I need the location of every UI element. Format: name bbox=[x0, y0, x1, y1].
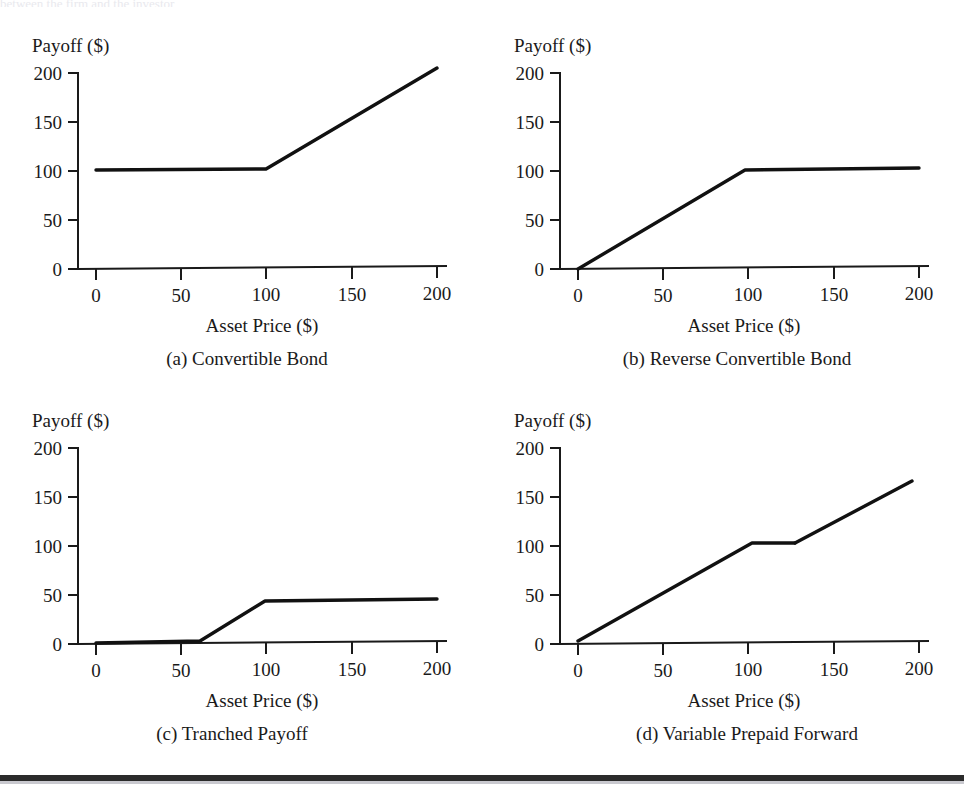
x-axis-label: Asset Price ($) bbox=[688, 315, 801, 337]
payoff-line-upper bbox=[795, 481, 912, 543]
payoff-line-lower bbox=[578, 543, 795, 641]
x-axis-label: Asset Price ($) bbox=[206, 690, 319, 712]
x-tick-label-200: 200 bbox=[423, 658, 452, 679]
y-tick-label-200: 200 bbox=[34, 63, 63, 84]
y-tick-label-0: 0 bbox=[53, 634, 63, 655]
x-tick-label-150: 150 bbox=[820, 284, 849, 305]
y-tick-label-0: 0 bbox=[535, 634, 545, 655]
x-tick-label-50: 50 bbox=[654, 660, 673, 681]
y-tick-label-100: 100 bbox=[34, 161, 63, 182]
x-axis-line bbox=[560, 641, 929, 644]
chart-svg-tranched-payoff: Payoff ($) 200 150 100 50 0 0 50 100 150… bbox=[0, 385, 482, 760]
x-tick-label-100: 100 bbox=[252, 659, 281, 680]
x-tick-label-200: 200 bbox=[905, 658, 934, 679]
y-tick-label-150: 150 bbox=[516, 487, 545, 508]
y-tick-label-0: 0 bbox=[53, 259, 63, 280]
y-tick-label-150: 150 bbox=[34, 487, 63, 508]
y-tick-label-50: 50 bbox=[525, 585, 544, 606]
chart-svg-reverse-convertible-bond: Payoff ($) 200 150 100 50 0 0 50 100 150… bbox=[482, 10, 964, 385]
y-tick-label-100: 100 bbox=[516, 536, 545, 557]
x-axis-label: Asset Price ($) bbox=[206, 315, 319, 337]
chart-panel-convertible-bond: Payoff ($) 200 150 100 50 0 0 50 10 bbox=[0, 10, 482, 385]
panel-caption: (b) Reverse Convertible Bond bbox=[623, 348, 852, 370]
payoff-line bbox=[578, 168, 919, 269]
x-axis-line bbox=[560, 266, 929, 269]
x-tick-label-100: 100 bbox=[734, 284, 763, 305]
chart-panel-reverse-convertible-bond: Payoff ($) 200 150 100 50 0 0 50 100 150… bbox=[482, 10, 964, 385]
figure-bottom-rule-shadow bbox=[0, 781, 964, 784]
panel-caption: (d) Variable Prepaid Forward bbox=[636, 723, 858, 745]
x-tick-label-0: 0 bbox=[573, 285, 583, 306]
y-tick-label-100: 100 bbox=[34, 536, 63, 557]
x-tick-label-200: 200 bbox=[423, 283, 452, 304]
x-tick-label-50: 50 bbox=[654, 285, 673, 306]
x-tick-label-150: 150 bbox=[338, 659, 367, 680]
y-tick-label-150: 150 bbox=[34, 112, 63, 133]
chart-panel-variable-prepaid-forward: Payoff ($) 200 150 100 50 0 0 50 100 150… bbox=[482, 385, 964, 760]
x-axis-label: Asset Price ($) bbox=[688, 690, 801, 712]
x-tick-label-200: 200 bbox=[905, 283, 934, 304]
y-tick-label-50: 50 bbox=[43, 210, 62, 231]
y-tick-label-50: 50 bbox=[525, 210, 544, 231]
chart-svg-variable-prepaid-forward: Payoff ($) 200 150 100 50 0 0 50 100 150… bbox=[482, 385, 964, 760]
payoff-line bbox=[96, 599, 437, 643]
y-axis-label: Payoff ($) bbox=[514, 410, 591, 432]
x-tick-label-0: 0 bbox=[91, 285, 101, 306]
x-tick-label-100: 100 bbox=[252, 284, 281, 305]
payoff-line bbox=[96, 68, 437, 170]
y-tick-label-200: 200 bbox=[516, 63, 545, 84]
x-tick-label-50: 50 bbox=[172, 660, 191, 681]
payoff-diagram-grid: Payoff ($) 200 150 100 50 0 0 50 10 bbox=[0, 10, 964, 760]
y-axis-label: Payoff ($) bbox=[32, 35, 109, 57]
y-tick-label-200: 200 bbox=[34, 438, 63, 459]
chart-svg-convertible-bond: Payoff ($) 200 150 100 50 0 0 50 10 bbox=[0, 10, 482, 385]
y-tick-label-100: 100 bbox=[516, 161, 545, 182]
x-tick-label-50: 50 bbox=[172, 285, 191, 306]
y-axis-label: Payoff ($) bbox=[514, 35, 591, 57]
panel-caption: (a) Convertible Bond bbox=[166, 348, 328, 370]
x-tick-label-150: 150 bbox=[820, 659, 849, 680]
y-tick-label-50: 50 bbox=[43, 585, 62, 606]
y-tick-label-200: 200 bbox=[516, 438, 545, 459]
y-axis-label: Payoff ($) bbox=[32, 410, 109, 432]
chart-panel-tranched-payoff: Payoff ($) 200 150 100 50 0 0 50 100 150… bbox=[0, 385, 482, 760]
x-tick-label-100: 100 bbox=[734, 659, 763, 680]
y-tick-label-0: 0 bbox=[535, 259, 545, 280]
panel-caption: (c) Tranched Payoff bbox=[156, 723, 308, 745]
x-axis-line bbox=[78, 266, 447, 269]
x-tick-label-150: 150 bbox=[338, 284, 367, 305]
clipped-header-text: between the firm and the investor bbox=[0, 0, 500, 7]
x-tick-label-0: 0 bbox=[573, 660, 583, 681]
y-tick-label-150: 150 bbox=[516, 112, 545, 133]
x-tick-label-0: 0 bbox=[91, 660, 101, 681]
